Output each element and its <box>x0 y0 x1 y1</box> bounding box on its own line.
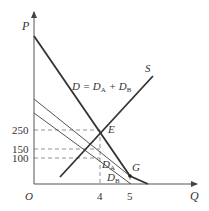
supply-label: S <box>145 62 151 74</box>
demand-b-curve <box>34 113 131 184</box>
demand-a-curve <box>34 99 130 176</box>
demand-a-label: DA <box>101 158 115 172</box>
origin-label: O <box>25 190 33 202</box>
y-tick-250: 250 <box>12 124 29 136</box>
demand-b-label: DB <box>106 171 120 185</box>
point-e-label: E <box>107 123 115 135</box>
y-axis-label: P <box>21 19 30 33</box>
x-tick-5: 5 <box>127 190 133 202</box>
x-tick-4: 4 <box>97 190 103 202</box>
diagram-canvas: P Q O 250 150 100 4 5 D = DA + DB S DA D… <box>0 0 209 211</box>
y-tick-100: 100 <box>12 152 29 164</box>
aggregate-demand-curve <box>34 36 148 184</box>
aggregate-demand-label: D = DA + DB <box>71 80 132 94</box>
point-g-label: G <box>132 161 140 173</box>
x-axis-label: Q <box>190 189 199 203</box>
point-g-marker <box>128 174 132 178</box>
